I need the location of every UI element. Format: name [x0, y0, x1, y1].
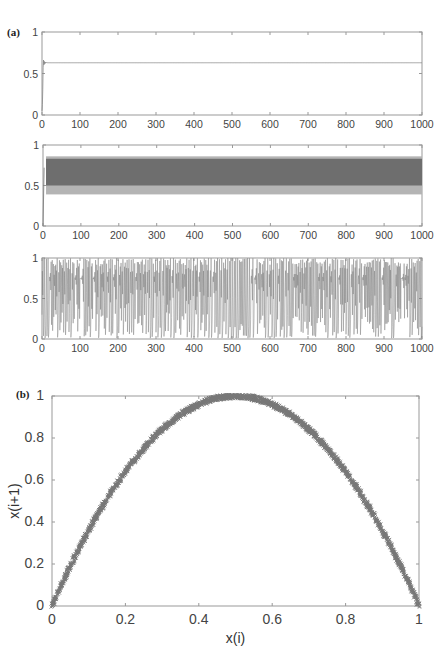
x-tick-label: 1000	[410, 342, 434, 354]
x-tick-label: 400	[185, 118, 203, 130]
x-tick-label: 0	[39, 342, 45, 354]
y-tick-label: 1	[36, 387, 44, 403]
y-tick-label: 1	[33, 139, 39, 151]
y-tick-label: 0.2	[25, 555, 45, 571]
x-tick-label: 700	[299, 118, 317, 130]
panel-b-label: (b)	[16, 388, 30, 401]
y-tick-label: 0	[32, 109, 38, 121]
y-tick-label: 0.6	[25, 471, 45, 487]
x-tick-label: 900	[375, 118, 393, 130]
plot-frame	[42, 32, 422, 115]
x-tick-label: 0.4	[189, 611, 209, 627]
y-tick-label: 0.4	[25, 513, 45, 529]
series-line	[42, 60, 422, 111]
x-tick-label: 200	[110, 229, 128, 241]
x-tick-label: 1	[415, 611, 423, 627]
x-tick-label: 500	[224, 229, 242, 241]
x-tick-label: 400	[185, 342, 203, 354]
x-tick-label: 300	[148, 229, 166, 241]
y-tick-label: 0.8	[25, 429, 45, 445]
scatter-markers	[50, 393, 422, 608]
panel-b-return-map: 00.20.40.60.8100.20.40.60.81x(i)x(i+1)	[6, 387, 423, 646]
y-tick-label: 0.5	[23, 293, 38, 305]
x-tick-label: 800	[337, 342, 355, 354]
x-tick-label: 0	[48, 611, 56, 627]
x-tick-label: 500	[223, 118, 241, 130]
y-tick-label: 0	[33, 220, 39, 232]
panel-a-middle-chart: 0100200300400500600700800900100000.51	[24, 139, 433, 241]
x-axis-label: x(i)	[226, 630, 245, 646]
x-tick-label: 0	[40, 229, 46, 241]
panel-a-bottom-chart: 0100200300400500600700800900100000.51	[23, 252, 433, 354]
x-tick-label: 0	[39, 118, 45, 130]
y-tick-label: 1	[32, 252, 38, 264]
y-axis-label: x(i+1)	[6, 483, 22, 518]
x-tick-label: 100	[71, 342, 89, 354]
x-tick-label: 300	[147, 342, 165, 354]
x-tick-label: 300	[147, 118, 165, 130]
x-tick-label: 700	[299, 342, 317, 354]
x-tick-label: 1000	[410, 118, 434, 130]
x-tick-label: 800	[337, 118, 355, 130]
x-tick-label: 1000	[410, 229, 434, 241]
x-tick-label: 600	[262, 229, 280, 241]
x-tick-label: 100	[72, 229, 90, 241]
y-tick-label: 0	[32, 333, 38, 345]
x-tick-label: 400	[186, 229, 204, 241]
x-tick-label: 900	[375, 342, 393, 354]
panel-a-top-chart: 0100200300400500600700800900100000.51	[23, 26, 433, 130]
y-tick-label: 0	[36, 597, 44, 613]
x-tick-label: 0.8	[336, 611, 356, 627]
series-line	[42, 258, 422, 338]
y-tick-label: 0.5	[23, 68, 38, 80]
x-tick-label: 100	[71, 118, 89, 130]
x-tick-label: 900	[375, 229, 393, 241]
x-tick-label: 200	[109, 118, 127, 130]
x-tick-label: 800	[337, 229, 355, 241]
oscillation-band-dark	[46, 159, 422, 186]
x-tick-label: 600	[261, 118, 279, 130]
x-tick-label: 0.6	[262, 611, 282, 627]
x-tick-label: 700	[300, 229, 318, 241]
x-tick-label: 600	[261, 342, 279, 354]
x-tick-label: 500	[223, 342, 241, 354]
x-tick-label: 200	[109, 342, 127, 354]
y-tick-label: 0.5	[24, 180, 39, 192]
x-tick-label: 0.2	[116, 611, 136, 627]
panel-a-label: (a)	[7, 26, 20, 39]
y-tick-label: 1	[32, 26, 38, 38]
figure: (a) 0100200300400500600700800900100000.5…	[0, 0, 442, 654]
